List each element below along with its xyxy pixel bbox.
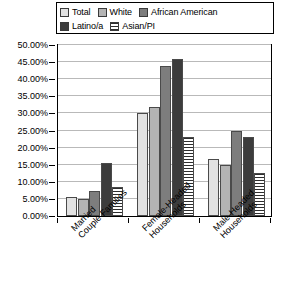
- y-axis-tick-mark: [49, 45, 55, 46]
- legend-item-latino: Latino/a: [60, 22, 103, 31]
- y-axis-tick-label: 10.00%: [17, 177, 48, 186]
- y-axis-tick-mark: [49, 79, 55, 80]
- x-axis-tick-mark: [128, 218, 129, 223]
- legend-label-latino: Latino/a: [72, 22, 103, 31]
- y-axis-tick-label: 30.00%: [17, 109, 48, 118]
- y-axis-tick-label: 35.00%: [17, 92, 48, 101]
- bar-total: [208, 159, 219, 216]
- y-axis-tick-label: 20.00%: [17, 143, 48, 152]
- bar-afam: [160, 66, 171, 216]
- legend-label-african-american: African American: [151, 8, 217, 17]
- legend-item-african-american: African American: [139, 8, 217, 17]
- y-axis: 50.00%45.00%40.00%35.00%30.00%25.00%20.0…: [0, 44, 57, 218]
- swatch-african-american-icon: [139, 8, 148, 17]
- swatch-asian-pi-icon: [110, 22, 119, 31]
- y-axis-tick-label: 0.00%: [22, 212, 48, 221]
- bar-group: [208, 45, 265, 216]
- y-axis-tick-mark: [49, 113, 55, 114]
- bar-white: [149, 107, 160, 216]
- legend-item-white: White: [98, 8, 133, 17]
- x-axis-tick-mark: [270, 218, 271, 223]
- bar-total: [66, 197, 77, 216]
- chart-legend: Total White African American Latino/a As…: [56, 2, 274, 34]
- swatch-total-icon: [60, 8, 69, 17]
- y-axis-tick-mark: [49, 182, 55, 183]
- y-axis-tick-mark: [49, 216, 55, 217]
- legend-row-1: Total White African American: [60, 5, 270, 19]
- y-axis-tick-mark: [49, 96, 55, 97]
- x-axis-tick-mark: [199, 218, 200, 223]
- bar-chart: Total White African American Latino/a As…: [0, 0, 284, 300]
- legend-label-total: Total: [72, 8, 91, 17]
- y-axis-tick-mark: [49, 165, 55, 166]
- legend-label-white: White: [110, 8, 133, 17]
- y-axis-tick-mark: [49, 148, 55, 149]
- plot-area: [57, 44, 272, 217]
- x-axis: MarriedCouple FamiliesFemale-HeadedHouse…: [57, 218, 272, 298]
- y-axis-tick-label: 5.00%: [22, 194, 48, 203]
- y-axis-tick-mark: [49, 62, 55, 63]
- bars-layer: [58, 45, 271, 216]
- y-axis-tick-label: 15.00%: [17, 160, 48, 169]
- y-axis-tick-mark: [49, 131, 55, 132]
- y-axis-tick-label: 45.00%: [17, 58, 48, 67]
- y-axis-tick-label: 40.00%: [17, 75, 48, 84]
- legend-row-2: Latino/a Asian/PI: [60, 19, 270, 33]
- legend-item-total: Total: [60, 8, 91, 17]
- swatch-latino-icon: [60, 22, 69, 31]
- y-axis-tick-label: 25.00%: [17, 126, 48, 135]
- legend-label-asian-pi: Asian/PI: [122, 22, 155, 31]
- swatch-white-icon: [98, 8, 107, 17]
- y-axis-tick-label: 50.00%: [17, 41, 48, 50]
- legend-item-asian-pi: Asian/PI: [110, 22, 155, 31]
- y-axis-tick-mark: [49, 199, 55, 200]
- x-axis-tick-mark: [57, 218, 58, 223]
- bar-total: [137, 113, 148, 216]
